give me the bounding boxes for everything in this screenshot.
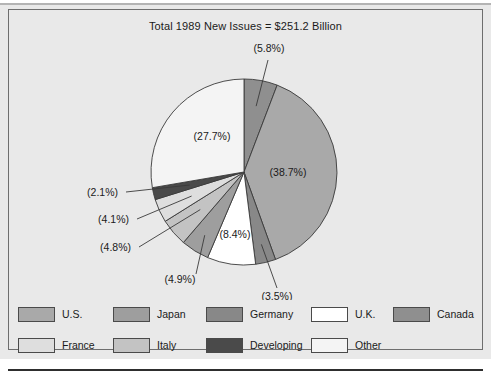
legend-row-2: FranceItalyDevelopingOther	[18, 334, 478, 356]
legend-label-developing: Developing	[250, 339, 303, 351]
legend-swatch-france	[18, 338, 55, 353]
pie-label-france: (4.1%)	[98, 213, 129, 225]
legend-label-italy: Italy	[157, 339, 176, 351]
legend-swatch-u-s	[18, 307, 55, 322]
legend-swatch-italy	[113, 338, 150, 353]
legend-label-other: Other	[355, 339, 381, 351]
pie-label-other: (27.7%)	[194, 130, 231, 142]
legend-swatch-germany	[206, 307, 243, 322]
legend-swatch-developing	[206, 338, 243, 353]
pie-label-japan: (4.9%)	[165, 273, 196, 285]
legend-swatch-japan	[113, 307, 150, 322]
legend-item-u-k[interactable]: U.K.	[311, 304, 393, 324]
pie-label-italy: (4.8%)	[100, 241, 131, 253]
pie-svg: (38.7%)(27.7%)(8.4%)(5.8%)(3.5%)(4.9%)(4…	[0, 0, 491, 300]
pie-label-germany: (3.5%)	[262, 290, 293, 300]
legend-label-france: France	[62, 339, 95, 351]
source-note-faint	[16, 376, 416, 386]
bottom-separator-rule	[8, 369, 483, 371]
pie-label-developing: (2.1%)	[87, 186, 118, 198]
legend-item-germany[interactable]: Germany	[206, 304, 311, 324]
pie-label-u-k: (8.4%)	[220, 228, 251, 240]
pie-label-canada: (5.8%)	[254, 42, 285, 54]
legend-swatch-u-k	[311, 307, 348, 322]
legend-item-italy[interactable]: Italy	[113, 335, 206, 355]
legend-item-u-s[interactable]: U.S.	[18, 304, 113, 324]
legend-swatch-other	[311, 338, 348, 353]
pie-plot-area: (38.7%)(27.7%)(8.4%)(5.8%)(3.5%)(4.9%)(4…	[0, 0, 491, 300]
legend-label-germany: Germany	[250, 308, 293, 320]
legend-swatch-canada	[393, 307, 430, 322]
legend-item-france[interactable]: France	[18, 335, 113, 355]
legend-row-1: U.S.JapanGermanyU.K.Canada	[18, 303, 478, 325]
pie-chart-figure: Total 1989 New Issues = $251.2 Billion (…	[0, 0, 491, 388]
legend-label-u-k: U.K.	[355, 308, 375, 320]
legend-item-developing[interactable]: Developing	[206, 335, 311, 355]
legend-label-canada: Canada	[437, 308, 474, 320]
legend-item-canada[interactable]: Canada	[393, 304, 478, 324]
legend-item-japan[interactable]: Japan	[113, 304, 206, 324]
pie-label-u-s: (38.7%)	[270, 166, 307, 178]
legend-label-u-s: U.S.	[62, 308, 82, 320]
legend-label-japan: Japan	[157, 308, 186, 320]
legend-item-other[interactable]: Other	[311, 335, 396, 355]
chart-legend: U.S.JapanGermanyU.K.Canada FranceItalyDe…	[18, 300, 478, 358]
